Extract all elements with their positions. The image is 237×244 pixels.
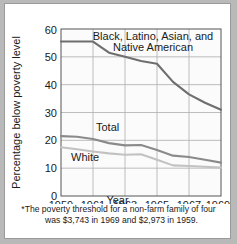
y-tick-10: 10 [45,162,57,174]
y-axis-title: Percentage below poverty level [10,36,22,189]
series-label-total: Total [96,121,119,133]
y-tick-30: 30 [45,107,57,119]
chart-svg: 0 10 20 30 40 50 60 1959 1961 1963 1965 … [5,4,230,204]
series-label-white: White [71,151,99,163]
y-tick-50: 50 [45,51,57,63]
y-axis-ticks: 0 10 20 30 40 50 60 [45,24,57,203]
series-label-minority-line2: Native American [113,41,193,53]
footnote-line-2: was $3,743 in 1969 and $2,973 in 1959. [11,215,226,226]
y-tick-40: 40 [45,79,57,91]
y-tick-60: 60 [45,24,57,36]
y-tick-20: 20 [45,134,57,146]
footnote-line-1: *The poverty threshold for a non-farm fa… [11,204,226,215]
figure-card: 0 10 20 30 40 50 60 1959 1961 1963 1965 … [4,3,231,239]
poverty-line-chart: 0 10 20 30 40 50 60 1959 1961 1963 1965 … [5,4,230,204]
chart-footnote: *The poverty threshold for a non-farm fa… [11,204,226,226]
